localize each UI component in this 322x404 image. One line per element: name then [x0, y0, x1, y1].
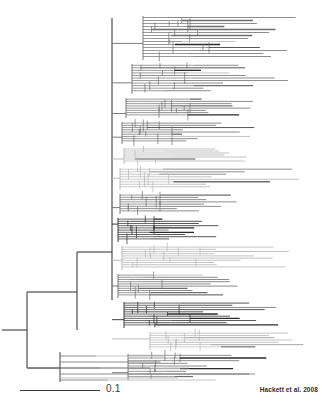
tree-canvas — [0, 0, 322, 404]
tree-branches — [2, 16, 303, 382]
phylogenetic-tree-figure: 0.1 Hackett et al. 2008 — [0, 0, 322, 404]
